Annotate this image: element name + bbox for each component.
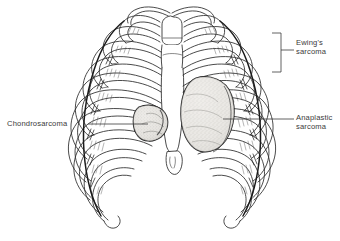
label-ewings-sarcoma: Ewing's sarcoma <box>296 38 326 56</box>
label-chondrosarcoma: Chondrosarcoma <box>7 119 67 128</box>
label-anaplastic-sarcoma: Anaplastic sarcoma <box>296 113 333 131</box>
